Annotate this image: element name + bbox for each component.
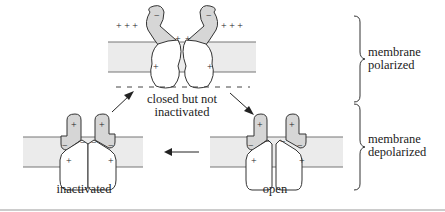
svg-text:+: +: [257, 119, 263, 130]
svg-text:+: +: [175, 33, 181, 44]
svg-text:+: +: [108, 155, 114, 166]
brace-polarized: [354, 16, 365, 102]
brace-depolarized: [354, 104, 365, 190]
channel-state-diagram: − − + + + + + + + + + + closed but not i…: [0, 0, 445, 212]
svg-text:−: −: [91, 137, 97, 148]
label-closed-line1: closed but not: [147, 92, 218, 106]
svg-text:+: +: [153, 61, 159, 72]
svg-text:−: −: [206, 10, 212, 21]
membrane-top: [108, 42, 256, 72]
outside-charges-left: + + +: [116, 20, 138, 31]
svg-text:+: +: [99, 119, 105, 130]
svg-text:+: +: [289, 119, 295, 130]
label-closed-line2: inactivated: [155, 105, 211, 119]
label-polarized-line2: polarized: [368, 58, 415, 72]
svg-text:+: +: [299, 155, 305, 166]
svg-text:+: +: [207, 61, 213, 72]
svg-text:−: −: [280, 136, 286, 147]
svg-text:−: −: [108, 140, 114, 151]
label-polarized-line1: membrane: [368, 45, 421, 59]
svg-text:−: −: [297, 140, 303, 151]
svg-text:−: −: [248, 140, 254, 151]
outside-charges-right: + + +: [221, 20, 243, 31]
label-inactivated: inactivated: [57, 182, 113, 196]
svg-text:−: −: [265, 136, 271, 147]
closed-channel: − − + + + + + + + + + + closed but not i…: [108, 6, 256, 119]
svg-text:−: −: [62, 140, 68, 151]
svg-text:+: +: [251, 155, 257, 166]
label-open: open: [263, 182, 288, 196]
label-depolarized-line2: depolarized: [368, 145, 427, 159]
label-depolarized-line1: membrane: [368, 132, 421, 146]
open-channel: + + − − − − + + open: [210, 114, 343, 196]
svg-text:+: +: [185, 33, 191, 44]
svg-text:−: −: [80, 137, 86, 148]
inactivated-channel: + + − − − − + + inactivated: [23, 114, 143, 196]
state-braces: membrane polarized membrane depolarized: [354, 16, 427, 190]
svg-text:+: +: [66, 155, 72, 166]
svg-text:−: −: [154, 10, 160, 21]
svg-text:+: +: [71, 119, 77, 130]
